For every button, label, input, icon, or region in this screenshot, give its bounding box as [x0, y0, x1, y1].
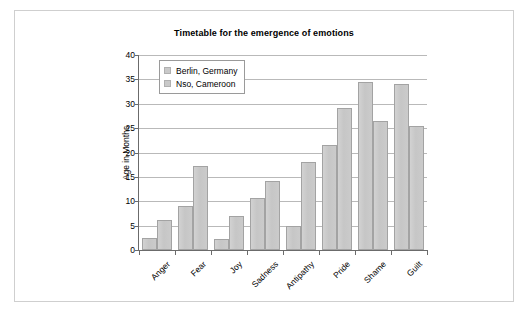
- y-axis-tick-label: 40: [126, 50, 135, 60]
- y-axis-tick-label: 30: [126, 99, 135, 109]
- legend-item[interactable]: Nso, Cameroon: [164, 77, 237, 90]
- x-axis-tick-mark: [355, 250, 356, 255]
- x-axis-tick-label-text: Joy: [228, 259, 244, 275]
- x-axis-tick-label: Joy: [237, 250, 253, 266]
- legend-item-label: Nso, Cameroon: [176, 79, 236, 89]
- x-axis-tick-label-text: Antipathy: [284, 259, 316, 291]
- bar[interactable]: [394, 84, 409, 250]
- legend-item[interactable]: Berlin, Germany: [164, 64, 237, 77]
- chart-title: Timetable for the emergence of emotions: [15, 28, 513, 38]
- x-axis-tick-mark: [283, 250, 284, 255]
- x-axis-tick-mark: [175, 250, 176, 255]
- bar[interactable]: [214, 239, 229, 250]
- legend-swatch-icon: [164, 67, 171, 74]
- x-axis-tick-mark: [211, 250, 212, 255]
- x-axis-tick-label-text: Anger: [149, 259, 172, 282]
- x-axis-tick-mark: [391, 250, 392, 255]
- x-axis-tick-mark: [139, 250, 140, 255]
- y-axis-tick-label: 0: [130, 245, 135, 255]
- x-axis-tick-label-text: Pride: [331, 259, 352, 280]
- y-axis-tick-label: 25: [126, 123, 135, 133]
- bar[interactable]: [193, 166, 208, 250]
- x-axis-tick-mark: [247, 250, 248, 255]
- x-axis-tick-label-text: Guilt: [405, 259, 424, 278]
- y-axis-tick-label: 15: [126, 172, 135, 182]
- bar-group: [247, 55, 283, 250]
- bar[interactable]: [337, 108, 352, 250]
- y-axis-tick-label: 20: [126, 148, 135, 158]
- bar[interactable]: [373, 121, 388, 250]
- bar-group: [319, 55, 355, 250]
- y-axis-tick-label: 10: [126, 196, 135, 206]
- bar-group: [283, 55, 319, 250]
- bar[interactable]: [250, 198, 265, 250]
- x-axis-tick-label-text: Sadness: [250, 259, 280, 289]
- bar[interactable]: [142, 238, 157, 250]
- legend-item-label: Berlin, Germany: [176, 66, 237, 76]
- bar[interactable]: [301, 162, 316, 250]
- chart-frame: Timetable for the emergence of emotions …: [14, 10, 514, 302]
- bar[interactable]: [358, 82, 373, 250]
- bar-group: [391, 55, 427, 250]
- x-axis-tick-mark: [319, 250, 320, 255]
- y-axis-tick-label: 35: [126, 74, 135, 84]
- legend-swatch-icon: [164, 80, 171, 87]
- chart-legend: Berlin, GermanyNso, Cameroon: [159, 60, 245, 94]
- y-axis-tick-label: 5: [130, 221, 135, 231]
- bar[interactable]: [265, 181, 280, 250]
- x-axis-tick-label-text: Fear: [189, 259, 208, 278]
- x-axis-tick-mark: [427, 250, 428, 255]
- bar[interactable]: [157, 220, 172, 250]
- bar-group: [355, 55, 391, 250]
- bar[interactable]: [229, 216, 244, 250]
- x-axis-tick-label-text: Shame: [362, 259, 388, 285]
- bar[interactable]: [409, 126, 424, 250]
